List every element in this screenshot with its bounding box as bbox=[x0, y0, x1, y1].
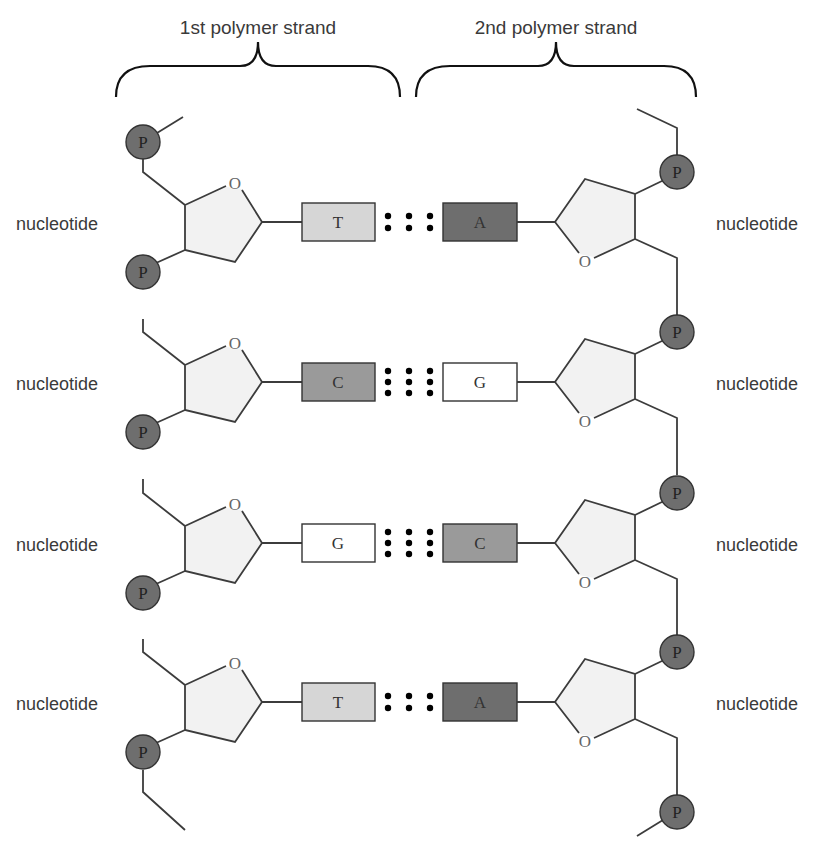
phosphate-right-2: P bbox=[660, 476, 694, 510]
svg-text:P: P bbox=[138, 263, 147, 282]
hydrogen-bonds bbox=[385, 213, 433, 231]
base-C-left: C bbox=[302, 363, 375, 401]
nucleotide-label-right: nucleotide bbox=[716, 214, 798, 234]
svg-text:P: P bbox=[672, 163, 681, 182]
svg-text:P: P bbox=[138, 423, 147, 442]
base-T-left: T bbox=[302, 683, 375, 721]
sugar-left bbox=[185, 667, 262, 742]
nucleotide-label-left: nucleotide bbox=[16, 535, 98, 555]
base-G-right: G bbox=[443, 363, 517, 401]
phosphate-left-1: P bbox=[126, 255, 160, 289]
hydrogen-bonds bbox=[385, 693, 433, 711]
phosphate-right-0: P bbox=[660, 155, 694, 189]
sugar-left bbox=[185, 508, 262, 583]
phosphate-right-4: P bbox=[660, 795, 694, 829]
svg-text:C: C bbox=[332, 373, 343, 392]
nucleotide-label-right: nucleotide bbox=[716, 535, 798, 555]
base-T-left: T bbox=[302, 203, 375, 241]
svg-text:T: T bbox=[333, 693, 344, 712]
svg-text:P: P bbox=[672, 803, 681, 822]
svg-text:P: P bbox=[672, 484, 681, 503]
phosphate-left-4: P bbox=[126, 735, 160, 769]
svg-text:P: P bbox=[672, 323, 681, 342]
base-G-left: G bbox=[302, 524, 375, 562]
svg-text:P: P bbox=[138, 743, 147, 762]
phosphate-left-3: P bbox=[126, 576, 160, 610]
nucleotide-label-left: nucleotide bbox=[16, 214, 98, 234]
dna-base-pairing-diagram: 1st polymer strand 2nd polymer strand Pn… bbox=[0, 0, 819, 848]
svg-text:O: O bbox=[229, 495, 241, 514]
svg-text:A: A bbox=[474, 213, 487, 232]
nucleotide-label-left: nucleotide bbox=[16, 694, 98, 714]
svg-text:O: O bbox=[579, 252, 591, 271]
svg-text:O: O bbox=[579, 573, 591, 592]
svg-text:O: O bbox=[579, 732, 591, 751]
svg-text:O: O bbox=[229, 174, 241, 193]
phosphate-right-1: P bbox=[660, 315, 694, 349]
base-A-right: A bbox=[443, 203, 517, 241]
svg-text:P: P bbox=[138, 133, 147, 152]
first-strand-brace bbox=[116, 42, 400, 97]
svg-text:C: C bbox=[474, 534, 485, 553]
phosphate-right-3: P bbox=[660, 635, 694, 669]
svg-text:G: G bbox=[474, 373, 486, 392]
svg-text:A: A bbox=[474, 693, 487, 712]
svg-text:T: T bbox=[333, 213, 344, 232]
hydrogen-bonds bbox=[385, 529, 433, 557]
base-A-right: A bbox=[443, 683, 517, 721]
nucleotide-label-right: nucleotide bbox=[716, 374, 798, 394]
nucleotide-label-right: nucleotide bbox=[716, 694, 798, 714]
sugar-left bbox=[185, 187, 262, 262]
sugar-left bbox=[185, 347, 262, 422]
svg-text:P: P bbox=[138, 584, 147, 603]
svg-text:O: O bbox=[229, 654, 241, 673]
phosphate-left-2: P bbox=[126, 415, 160, 449]
hydrogen-bonds bbox=[385, 368, 433, 396]
svg-text:O: O bbox=[579, 412, 591, 431]
svg-text:G: G bbox=[332, 534, 344, 553]
base-C-right: C bbox=[443, 524, 517, 562]
svg-text:O: O bbox=[229, 334, 241, 353]
second-strand-label: 2nd polymer strand bbox=[475, 17, 638, 38]
svg-text:P: P bbox=[672, 643, 681, 662]
second-strand-brace bbox=[416, 42, 696, 97]
first-strand-label: 1st polymer strand bbox=[180, 17, 336, 38]
nucleotide-label-left: nucleotide bbox=[16, 374, 98, 394]
phosphate-left-0: P bbox=[126, 125, 160, 159]
